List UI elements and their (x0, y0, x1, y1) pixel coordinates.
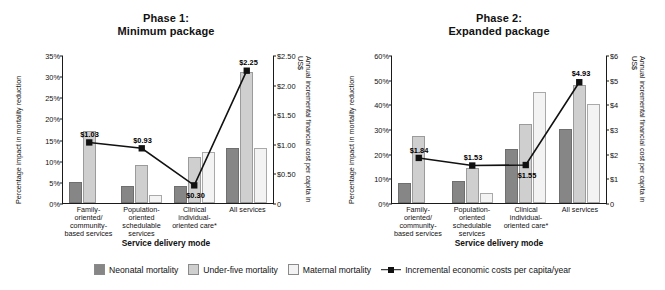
x-axis-category-label-line: All services (554, 206, 606, 214)
plot-area-phase-2: 0%10%20%30%40%50%60%0$1$2$3$4$5$6$1.84$1… (391, 56, 607, 204)
y2-axis-tick-mark (273, 115, 276, 116)
y-axis-title-phase-1: Percentage impact in mortality reduction (14, 76, 23, 204)
legend-item[interactable]: Maternal mortality (288, 264, 371, 275)
cost-point-label: $0.93 (133, 136, 152, 145)
y2-axis-tick-mark (273, 174, 276, 175)
legend-label: Incremental economic costs per capita/ye… (405, 265, 571, 275)
y2-axis-title-phase-2: Annual incremental financial cost per ca… (629, 56, 646, 206)
legend-item[interactable]: Incremental economic costs per capita/ye… (381, 264, 571, 275)
x-axis-category-label-line: All services (222, 206, 273, 214)
y2-axis-tick-label: $2.50 (273, 52, 296, 61)
chart-legend: Neonatal mortalityUnder-five mortalityMa… (0, 264, 665, 275)
cost-point-label: $2.25 (239, 58, 258, 67)
y-axis-tick-mark (389, 105, 392, 106)
y2-axis-tick-mark (606, 80, 609, 81)
y2-axis-tick-mark (273, 144, 276, 145)
x-axis-category-label: Clinicalindividual-oriented care* (499, 206, 553, 238)
y-axis-tick-mark (60, 161, 63, 162)
y-axis-tick-mark (60, 56, 63, 57)
plot-area-phase-1: 0%5%10%15%20%25%30%35%0$0.50$1.00$1.50$2… (62, 56, 274, 204)
chart-title-line-2: Minimum package (0, 25, 332, 38)
y2-axis-tick-label: $0.50 (273, 170, 296, 179)
cost-line-path (419, 82, 580, 165)
y-axis-tick-mark (60, 140, 63, 141)
line-marker-icon (381, 264, 401, 275)
legend-item[interactable]: Under-five mortality (188, 264, 278, 275)
x-axis-categories-phase-1: Family-oriented/community-based services… (62, 206, 274, 238)
y2-axis-tick-mark (606, 154, 609, 155)
x-axis-category-label: All services (553, 206, 607, 238)
x-axis-category-label-line: oriented care* (169, 222, 220, 230)
cost-point-label: $1.55 (518, 171, 537, 180)
y-axis-tick-mark (389, 56, 392, 57)
x-axis-category-label: Population-orientedschedulableservices (115, 206, 168, 238)
legend-item[interactable]: Neonatal mortality (94, 264, 178, 275)
chart-page: Phase 1: Minimum package Percentage impa… (0, 0, 665, 290)
y2-axis-tick-mark (606, 204, 609, 205)
cost-line-marker (191, 182, 197, 188)
chart-title-line-1: Phase 1: (0, 12, 332, 25)
y2-axis-tick-mark (606, 56, 609, 57)
cost-point-label: $1.03 (80, 130, 99, 139)
y2-axis-tick-label: $1.50 (273, 111, 296, 120)
cost-line-marker (416, 155, 422, 161)
x-axis-category-label-line: services (116, 230, 167, 238)
x-axis-title-phase-2: Service delivery mode (333, 238, 665, 248)
legend-label: Under-five mortality (203, 265, 278, 275)
x-axis-category-label-line: based services (392, 230, 444, 238)
x-axis-title-phase-1: Service delivery mode (0, 238, 332, 248)
cost-line-marker (523, 162, 529, 168)
y-axis-tick-mark (60, 204, 63, 205)
cost-line-marker (469, 162, 475, 168)
cost-line-path (89, 71, 247, 186)
y-axis-tick-mark (60, 98, 63, 99)
y2-axis-tick-label: $1.00 (273, 140, 296, 149)
y2-axis-tick-mark (606, 105, 609, 106)
y-axis-tick-mark (60, 77, 63, 78)
legend-label: Maternal mortality (303, 265, 371, 275)
square-swatch-light-gray-icon (188, 264, 199, 275)
y-axis-tick-mark (389, 179, 392, 180)
x-axis-category-label: Family-oriented/community-based services (62, 206, 115, 238)
chart-title-phase-1: Phase 1: Minimum package (0, 12, 332, 38)
chart-panel-phase-1: Phase 1: Minimum package Percentage impa… (0, 0, 332, 258)
chart-title-line-1: Phase 2: (333, 12, 665, 25)
cost-point-label: $1.84 (410, 146, 429, 155)
square-swatch-very-light-gray-icon (288, 264, 299, 275)
x-axis-category-label-line: based services (63, 230, 114, 238)
cost-point-label: $4.93 (572, 69, 591, 78)
legend-label: Neonatal mortality (109, 265, 178, 275)
cost-line-marker (244, 68, 250, 74)
y2-axis-tick-mark (606, 179, 609, 180)
y2-axis-tick-mark (273, 56, 276, 57)
cost-line-marker (86, 139, 92, 145)
x-axis-category-label: Population-orientedschedulableservices (445, 206, 499, 238)
y-axis-tick-mark (389, 154, 392, 155)
y2-axis-tick-mark (273, 85, 276, 86)
y-axis-tick-mark (389, 80, 392, 81)
x-axis-category-label: Clinicalindividual-oriented care* (168, 206, 221, 238)
x-axis-category-label: All services (221, 206, 274, 238)
y-axis-title-phase-2: Percentage impact in mortality reduction (347, 76, 356, 204)
y2-axis-tick-label: $2.00 (273, 81, 296, 90)
square-swatch-dark-gray-icon (94, 264, 105, 275)
x-axis-category-label-line: services (446, 230, 498, 238)
y-axis-tick-mark (389, 204, 392, 205)
y2-axis-title-phase-1: Annual incremental financial cost per ca… (295, 56, 312, 206)
y-axis-tick-mark (60, 182, 63, 183)
y-axis-tick-mark (389, 130, 392, 131)
cost-line-marker (576, 79, 582, 85)
cost-point-label: $1.53 (464, 153, 483, 162)
y-axis-tick-mark (60, 119, 63, 120)
cost-line-marker (139, 145, 145, 151)
y2-axis-tick-mark (606, 130, 609, 131)
y2-axis-tick-mark (273, 204, 276, 205)
chart-title-line-2: Expanded package (333, 25, 665, 38)
x-axis-category-label: Family-oriented/community-based services (391, 206, 445, 238)
chart-title-phase-2: Phase 2: Expanded package (333, 12, 665, 38)
x-axis-category-label-line: oriented care* (500, 222, 552, 230)
x-axis-categories-phase-2: Family-oriented/community-based services… (391, 206, 607, 238)
chart-panel-phase-2: Phase 2: Expanded package Percentage imp… (333, 0, 665, 258)
cost-point-label: $0.30 (186, 191, 205, 200)
